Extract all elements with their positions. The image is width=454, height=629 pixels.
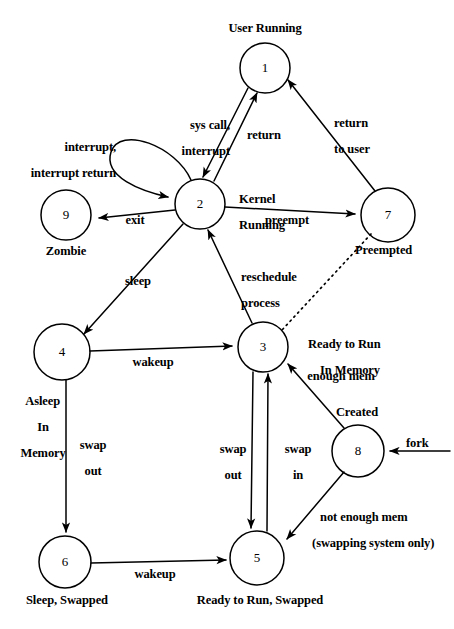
edge-label-swap-in-swapped-to-ready: swap in xyxy=(271,430,313,495)
edge-3-to-5-swap-out xyxy=(251,372,253,528)
edge-label-wakeup-asleep-to-ready: wakeup xyxy=(118,356,188,369)
edge-label-fork: fork xyxy=(406,437,450,450)
edge-label-wakeup-sleep-swapped-to-ready-swapped: wakeup xyxy=(120,568,190,581)
asleep-mem-line1: Asleep xyxy=(25,394,60,408)
edge-label-preempt: preempt xyxy=(251,214,323,227)
interrupt-line2: interrupt return xyxy=(31,166,116,180)
state-label-ready-to-run-swapped: Ready to Run, Swapped xyxy=(174,594,346,607)
edge-label-return: return xyxy=(247,129,307,142)
state-label-sleep-swapped: Sleep, Swapped xyxy=(8,594,126,607)
process-state-diagram: 1 2 3 4 5 6 7 8 9 User Running Kernel Ru… xyxy=(0,0,454,629)
return-user-line2: to user xyxy=(334,142,370,156)
state-number-8: 8 xyxy=(355,443,362,458)
swap-out-3-5-line2: out xyxy=(225,468,242,482)
edge-label-enough-mem: enough mem xyxy=(296,370,386,383)
edge-5-to-3-swap-in xyxy=(267,374,268,531)
reschedule-line2: process xyxy=(241,296,280,310)
edge-4-to-3-wakeup xyxy=(90,346,232,351)
syscall-line2: interrupt xyxy=(182,144,230,158)
asleep-mem-line3: Memory xyxy=(20,446,65,460)
return-user-line1: return xyxy=(334,116,368,130)
state-label-created: Created xyxy=(316,406,398,419)
swap-in-5-3-line1: swap xyxy=(285,442,312,456)
interrupt-line1: interrupt, xyxy=(65,140,116,154)
swap-in-5-3-line2: in xyxy=(293,468,303,482)
edge-label-interrupt-interrupt-return: interrupt, interrupt return xyxy=(8,128,116,193)
kernel-running-line1: Kernel xyxy=(239,192,275,206)
edge-label-not-enough-mem: not enough mem (swapping system only) xyxy=(300,498,454,563)
edge-label-sys-call-interrupt: sys call, interrupt xyxy=(152,106,230,171)
state-number-2: 2 xyxy=(197,196,204,211)
state-number-6: 6 xyxy=(62,554,69,569)
state-label-asleep-in-memory: Asleep In Memory xyxy=(4,382,70,473)
syscall-line1: sys call, xyxy=(190,118,230,132)
edge-label-return-to-user: return to user xyxy=(322,104,392,169)
edge-label-reschedule-process: reschedule process xyxy=(229,258,311,323)
state-number-1: 1 xyxy=(262,60,269,75)
reschedule-line1: reschedule xyxy=(241,270,297,284)
state-label-user-running: User Running xyxy=(212,22,318,35)
state-number-9: 9 xyxy=(63,207,70,222)
state-number-4: 4 xyxy=(59,344,66,359)
not-enough-mem-line2: (swapping system only) xyxy=(312,536,434,550)
edge-label-sleep: sleep xyxy=(112,275,164,288)
swap-out-4-6-line2: out xyxy=(85,464,102,478)
state-number-7: 7 xyxy=(385,207,392,222)
swap-out-4-6-line1: swap xyxy=(80,438,107,452)
swap-out-3-5-line1: swap xyxy=(220,442,247,456)
state-label-zombie: Zombie xyxy=(26,245,106,258)
edge-6-to-5-wakeup xyxy=(91,560,226,563)
state-label-preempted: Preempted xyxy=(355,244,450,257)
asleep-mem-line2: In xyxy=(37,420,49,434)
edge-label-swap-out-asleep-to-sleep-swapped: swap out xyxy=(62,426,112,491)
ready-mem-line1: Ready to Run xyxy=(308,337,380,351)
edge-label-swap-out-ready-to-swapped: swap out xyxy=(205,430,249,495)
state-number-5: 5 xyxy=(254,550,261,565)
state-number-3: 3 xyxy=(260,339,267,354)
edge-label-exit: exit xyxy=(113,214,157,227)
not-enough-mem-line1: not enough mem xyxy=(312,510,408,524)
